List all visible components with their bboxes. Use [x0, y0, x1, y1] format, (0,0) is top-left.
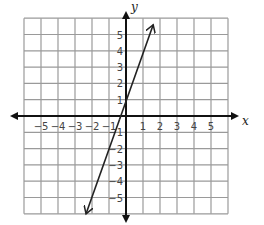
y-axis-label: y: [130, 0, 138, 14]
x-axis-label: x: [242, 114, 249, 128]
y-tick-label: 5: [117, 30, 123, 41]
x-tick-label: −3: [68, 121, 83, 132]
y-tick-label: 2: [117, 78, 123, 89]
x-tick-label: 4: [191, 121, 197, 132]
y-tick-label: −3: [108, 160, 123, 171]
x-tick-label: 2: [157, 121, 163, 132]
coordinate-plane: −5−4−3−2−11234554321−1−2−3−4−5 x y: [0, 0, 264, 225]
x-tick-label: −5: [34, 121, 49, 132]
axes: [12, 13, 237, 221]
y-tick-label: 4: [117, 46, 123, 57]
x-tick-label: 5: [208, 121, 214, 132]
x-tick-label: −2: [85, 121, 100, 132]
x-tick-label: 3: [174, 121, 180, 132]
y-tick-label: 3: [117, 62, 123, 73]
x-tick-label: 1: [140, 121, 146, 132]
x-tick-label: −4: [51, 121, 66, 132]
y-tick-label: −4: [108, 176, 123, 187]
y-tick-label: 1: [117, 95, 123, 106]
line-segment-up: [120, 25, 154, 120]
y-tick-label: −5: [108, 193, 123, 204]
